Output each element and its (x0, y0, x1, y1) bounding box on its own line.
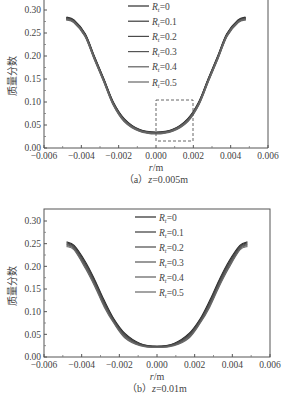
legend-label: Rt=0.3 (158, 258, 184, 269)
chart-b-series (67, 242, 248, 348)
legend-label: Rt=0 (158, 213, 177, 224)
legend-label: Rt=0.2 (158, 243, 184, 254)
legend-label: Rt=0.1 (158, 228, 184, 239)
x-tick-label: −0.002 (106, 360, 133, 370)
chart-b-caption: （b）z=0.01m (127, 383, 187, 394)
series-line (67, 245, 248, 347)
chart-b-y-label: 质量分数 (6, 266, 18, 306)
chart-b-x-label: r/m (150, 371, 165, 382)
series-line (67, 246, 248, 347)
y-tick-label: 0.20 (24, 262, 41, 272)
x-tick-label: 0.000 (146, 360, 168, 370)
series-line (67, 244, 248, 347)
x-tick-label: −0.004 (68, 360, 95, 370)
chart-panel-b: 0.000.050.100.150.200.250.30 −0.006−0.00… (0, 0, 286, 412)
legend-label: Rt=0.5 (158, 288, 184, 299)
series-line (67, 243, 248, 347)
x-tick-label: 0.006 (259, 360, 281, 370)
chart-b-plot-area: 0.000.050.100.150.200.250.30 −0.006−0.00… (6, 209, 281, 394)
legend-label: Rt=0.4 (158, 273, 184, 284)
y-tick-label: 0.25 (24, 239, 41, 249)
chart-b-legend: Rt=0Rt=0.1Rt=0.2Rt=0.3Rt=0.4Rt=0.5 (135, 213, 184, 299)
x-tick-label: −0.006 (31, 360, 58, 370)
series-line (67, 245, 248, 347)
chart-b-svg: 0.000.050.100.150.200.250.30 −0.006−0.00… (0, 0, 286, 412)
series-line (67, 242, 248, 346)
x-tick-label: 0.004 (222, 360, 244, 370)
y-tick-label: 0.10 (24, 307, 41, 317)
chart-b-x-ticks: −0.006−0.004−0.0020.0000.0020.0040.006 (31, 354, 281, 370)
y-tick-label: 0.15 (24, 284, 41, 294)
x-tick-label: 0.002 (184, 360, 206, 370)
y-tick-label: 0.05 (24, 330, 41, 340)
chart-b-frame (44, 209, 270, 357)
y-tick-label: 0.30 (24, 216, 41, 226)
